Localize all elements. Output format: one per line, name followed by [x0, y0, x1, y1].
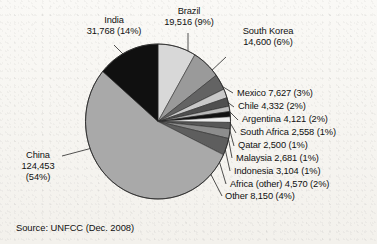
label-argentina: Argentina 4,121 (2%) — [242, 114, 328, 125]
figure-root: Brazil 19,516 (9%)South Korea 14,600 (6%… — [0, 0, 377, 244]
label-qatar: Qatar 2,500 (1%) — [238, 140, 308, 151]
label-indonesia: Indonesia 3,104 (1%) — [234, 166, 320, 177]
label-malaysia: Malaysia 2,681 (1%) — [236, 153, 319, 164]
label-china-line3: (54%) — [8, 172, 68, 183]
label-other: Other 8,150 (4%) — [225, 191, 295, 202]
label-china-line1: China — [8, 150, 68, 161]
label-africa-other: Africa (other) 4,570 (2%) — [230, 179, 329, 190]
label-china-line2: 124,453 — [8, 161, 68, 172]
label-south-korea: South Korea 14,600 (6%) — [222, 26, 314, 48]
label-south-africa: South Africa 2,558 (1%) — [240, 127, 336, 138]
label-mexico: Mexico 7,627 (3%) — [237, 88, 313, 99]
label-brazil-line1: Brazil — [143, 6, 235, 17]
source-caption: Source: UNFCC (Dec. 2008) — [16, 222, 134, 233]
pie-slice-group: Brazil 19,516 (9%)South Korea 14,600 (6%… — [86, 44, 231, 199]
label-south-korea-line2: 14,600 (6%) — [222, 37, 314, 48]
label-south-korea-line1: South Korea — [222, 26, 314, 37]
label-chile: Chile 4,332 (2%) — [238, 101, 306, 112]
label-china: China 124,453 (54%) — [8, 150, 68, 184]
